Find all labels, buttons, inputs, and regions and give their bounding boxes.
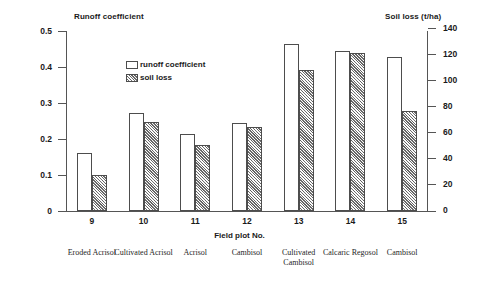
legend-item-runoff: runoff coefficient	[126, 58, 205, 71]
right-tick-1	[428, 54, 436, 55]
bar-group	[221, 31, 273, 211]
right-tick-2	[428, 80, 436, 81]
legend-label-runoff: runoff coefficient	[140, 60, 205, 69]
right-axis-title: Soil loss (t/ha)	[385, 12, 441, 21]
x-tick-label: 14	[324, 216, 376, 226]
right-tick-label-6: 20	[443, 179, 475, 189]
bar-runoff-coefficient	[387, 57, 402, 211]
right-tick-3	[428, 106, 436, 107]
bar-soil-loss	[247, 127, 262, 211]
bar-runoff-coefficient	[129, 113, 144, 211]
right-tick-4	[428, 132, 436, 133]
left-tick-label-3: 0.2	[22, 134, 52, 144]
bar-chart: Runoff coefficient Soil loss (t/ha) 0.5 …	[0, 0, 479, 286]
right-tick-label-7: 0	[443, 205, 475, 215]
x-axis-title: Field plot No.	[0, 231, 479, 240]
bar-soil-loss	[195, 145, 210, 211]
right-tick-label-0: 140	[443, 23, 475, 33]
right-tick-label-5: 40	[443, 153, 475, 163]
bar-soil-loss	[299, 70, 314, 211]
bar-runoff-coefficient	[335, 51, 350, 211]
right-tick-5	[428, 158, 436, 159]
left-tick-2	[58, 103, 66, 104]
x-tick-label: 10	[118, 216, 170, 226]
right-tick-label-2: 100	[443, 75, 475, 85]
bar-group	[66, 31, 118, 211]
legend-swatch-soil-loss-icon	[126, 74, 138, 82]
left-tick-0	[58, 31, 66, 32]
left-tick-4	[58, 175, 66, 176]
right-tick-6	[428, 184, 436, 185]
bar-runoff-coefficient	[284, 44, 299, 211]
x-tick-label: 15	[376, 216, 428, 226]
x-axis-line	[58, 211, 436, 212]
bar-runoff-coefficient	[180, 134, 195, 211]
legend-label-soil-loss: soil loss	[140, 73, 172, 82]
left-axis-title: Runoff coefficient	[74, 12, 144, 21]
left-tick-label-5: 0	[22, 206, 52, 216]
soil-type-label: Cambisol	[372, 248, 432, 258]
legend-swatch-runoff-icon	[126, 61, 138, 69]
left-tick-label-0: 0.5	[22, 26, 52, 36]
bar-soil-loss	[92, 175, 107, 211]
bar-soil-loss	[402, 111, 417, 211]
bar-group	[273, 31, 325, 211]
right-tick-label-4: 60	[443, 127, 475, 137]
right-tick-label-3: 80	[443, 101, 475, 111]
bar-soil-loss	[350, 53, 365, 211]
left-tick-1	[58, 67, 66, 68]
bar-group	[325, 31, 377, 211]
right-tick-label-1: 120	[443, 49, 475, 59]
legend: runoff coefficient soil loss	[126, 58, 205, 84]
bar-runoff-coefficient	[232, 123, 247, 211]
left-tick-label-1: 0.4	[22, 62, 52, 72]
right-tick-0	[428, 28, 436, 29]
x-tick-label: 9	[66, 216, 118, 226]
legend-item-soil-loss: soil loss	[126, 71, 205, 84]
x-tick-label: 12	[221, 216, 273, 226]
bar-runoff-coefficient	[77, 153, 92, 211]
bar-soil-loss	[144, 122, 159, 211]
x-tick-label: 13	[273, 216, 325, 226]
left-tick-3	[58, 139, 66, 140]
bar-group	[376, 31, 428, 211]
left-tick-label-4: 0.1	[22, 170, 52, 180]
x-tick-label: 11	[169, 216, 221, 226]
left-tick-label-2: 0.3	[22, 98, 52, 108]
